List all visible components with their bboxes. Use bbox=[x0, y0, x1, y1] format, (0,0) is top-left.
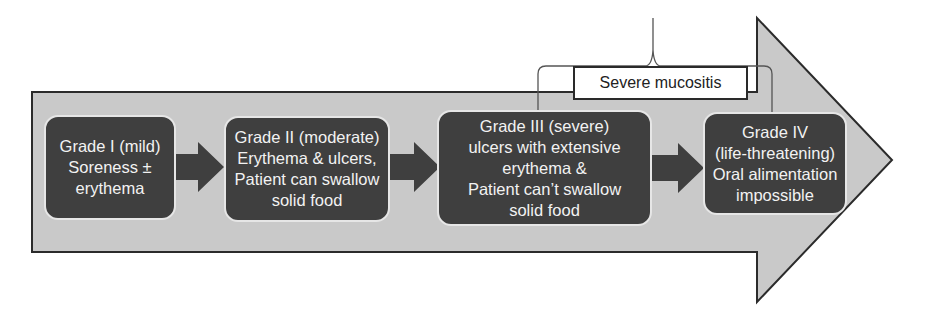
grade-1-line: erythema bbox=[60, 178, 161, 199]
grade-3-box: Grade III (severe) ulcers with extensive… bbox=[437, 110, 652, 226]
grade-1-box: Grade I (mild) Soreness ± erythema bbox=[44, 115, 176, 220]
grade-3-line: Patient can’t swallow bbox=[468, 179, 621, 200]
severe-mucositis-label: Severe mucositis bbox=[573, 66, 748, 100]
severe-mucositis-text: Severe mucositis bbox=[600, 74, 722, 92]
grade-2-line: Erythema & ulcers, bbox=[235, 148, 380, 169]
grade-1-line: Soreness ± bbox=[60, 157, 161, 178]
grade-4-line: impossible bbox=[713, 185, 838, 206]
grade-3-line: solid food bbox=[468, 200, 621, 221]
grade-4-box: Grade IV (life-threatening) Oral aliment… bbox=[703, 112, 847, 215]
grade-4-line: (life-threatening) bbox=[713, 143, 838, 164]
grade-4-line: Oral alimentation bbox=[713, 164, 838, 185]
grade-1-line: Grade I (mild) bbox=[60, 136, 161, 157]
grade-2-line: Grade II (moderate) bbox=[235, 127, 380, 148]
grade-3-line: erythema & bbox=[468, 158, 621, 179]
grade-2-line: Patient can swallow bbox=[235, 169, 380, 190]
grade-3-line: ulcers with extensive bbox=[468, 137, 621, 158]
grade-4-line: Grade IV bbox=[713, 122, 838, 143]
grade-2-box: Grade II (moderate) Erythema & ulcers, P… bbox=[224, 116, 390, 222]
grade-3-line: Grade III (severe) bbox=[468, 116, 621, 137]
grade-2-line: solid food bbox=[235, 190, 380, 211]
